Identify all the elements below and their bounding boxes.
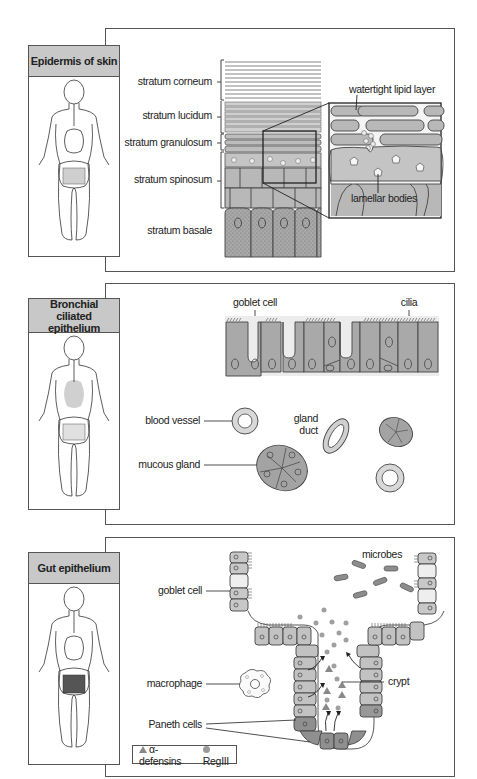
label-microbes: microbes — [362, 548, 402, 560]
circle-icon — [203, 746, 210, 753]
legend-item-alpha-defensins: α-defensins — [139, 743, 197, 767]
human-body-figure-gut — [29, 583, 119, 765]
label-goblet-cell-gut: goblet cell — [158, 584, 202, 596]
gut-title-card: Gut epithelium — [28, 552, 120, 765]
gut-card-title: Gut epithelium — [38, 562, 111, 574]
legend-item-regiii: RegIII — [203, 743, 236, 767]
label-crypt: crypt — [388, 675, 410, 687]
gut-card-header: Gut epithelium — [29, 553, 119, 584]
label-macrophage: macrophage — [147, 677, 203, 689]
triangle-icon — [139, 746, 147, 753]
label-paneth-cells: Paneth cells — [148, 718, 202, 730]
gut-legend: α-defensins RegIII — [132, 745, 237, 764]
